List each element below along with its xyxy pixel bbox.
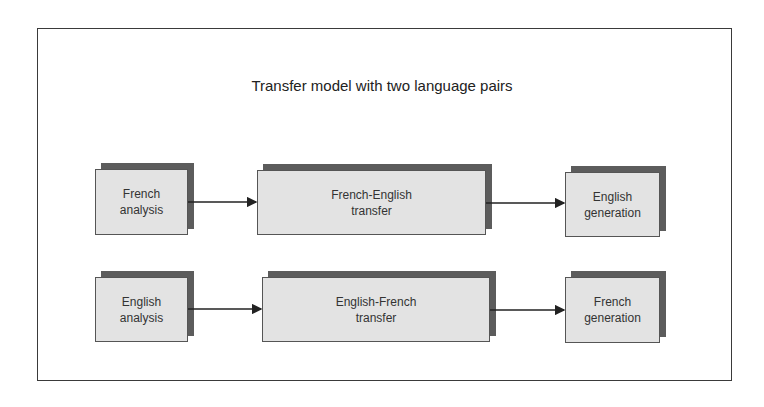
- arrows-layer: [0, 0, 764, 407]
